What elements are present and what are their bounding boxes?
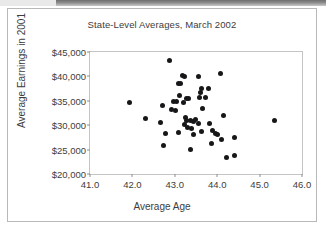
scatter-point — [221, 113, 226, 118]
scatter-point — [197, 95, 202, 100]
x-axis-tick-label: 46.0 — [293, 179, 312, 190]
scatter-point — [143, 116, 148, 121]
scatter-point — [177, 93, 182, 98]
scatter-point — [207, 121, 212, 126]
y-axis-tick-mark — [87, 125, 90, 126]
y-axis-tick-label: $30,000 — [52, 120, 86, 131]
scatter-point — [173, 108, 178, 113]
y-axis-tick-label: $25,000 — [52, 144, 86, 155]
scatter-point — [209, 141, 214, 146]
scatter-point — [232, 135, 237, 140]
y-axis-tick-label: $20,000 — [52, 169, 86, 180]
y-axis-tick-mark — [87, 76, 90, 77]
y-axis-tick-label: $35,000 — [52, 95, 86, 106]
scatter-point — [203, 95, 208, 100]
scatter-point — [199, 129, 204, 134]
scatter-point — [167, 58, 172, 63]
y-axis-tick-mark — [87, 52, 90, 53]
scatter-point — [181, 100, 186, 105]
scatter-point — [182, 74, 187, 79]
scatter-point — [174, 99, 179, 104]
chart-container: State-Level Averages, March 2002 Average… — [7, 8, 317, 222]
scatter-point — [232, 153, 237, 158]
scatter-point — [127, 100, 132, 105]
x-axis-tick-mark — [132, 174, 133, 177]
y-axis-tick-mark — [87, 100, 90, 101]
x-axis-tick-mark — [259, 174, 260, 177]
y-axis-tick-mark — [87, 149, 90, 150]
x-axis-tick-label: 44.0 — [208, 179, 227, 190]
x-axis-title: Average Age — [8, 201, 316, 212]
x-axis-tick-label: 45.0 — [250, 179, 269, 190]
scatter-point — [188, 147, 193, 152]
scan-edge-band-highlight — [0, 0, 56, 6]
plot-area: $20,000$25,000$30,000$35,000$40,000$45,0… — [89, 51, 303, 175]
scatter-point — [178, 81, 183, 86]
scatter-point — [163, 131, 168, 136]
chart-title: State-Level Averages, March 2002 — [8, 19, 316, 30]
scatter-point — [158, 120, 163, 125]
scatter-point — [176, 130, 181, 135]
scatter-point — [224, 155, 229, 160]
x-axis-tick-mark — [90, 174, 91, 177]
y-axis-title: Average Earnings in 2001 — [16, 10, 27, 132]
scatter-point — [196, 74, 201, 79]
scatter-point — [272, 118, 277, 123]
x-axis-tick-label: 43.0 — [166, 179, 185, 190]
scatter-point — [161, 143, 166, 148]
scatter-point — [160, 103, 165, 108]
x-axis-tick-mark — [302, 174, 303, 177]
x-axis-tick-label: 42.0 — [123, 179, 142, 190]
y-axis-tick-label: $45,000 — [52, 47, 86, 58]
x-axis-tick-mark — [217, 174, 218, 177]
scatter-point — [219, 137, 224, 142]
scatter-point — [206, 86, 211, 91]
scatter-point — [200, 106, 205, 111]
scatter-point — [191, 132, 196, 137]
scatter-point — [186, 96, 191, 101]
x-axis-tick-mark — [174, 174, 175, 177]
scatter-point — [196, 121, 201, 126]
y-axis-tick-label: $40,000 — [52, 71, 86, 82]
x-axis-tick-label: 41.0 — [81, 179, 100, 190]
scatter-point — [218, 71, 223, 76]
scatter-point — [189, 126, 194, 131]
